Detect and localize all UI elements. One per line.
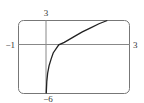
x-max-label: 3 [133,40,138,50]
viewing-window-frame [19,21,130,94]
function-curve [46,21,107,94]
y-min-label: −6 [43,94,53,103]
x-min-label: −1 [5,40,15,50]
graph-plot: 3 −6 −1 3 [0,0,144,103]
y-max-label: 3 [44,8,49,18]
